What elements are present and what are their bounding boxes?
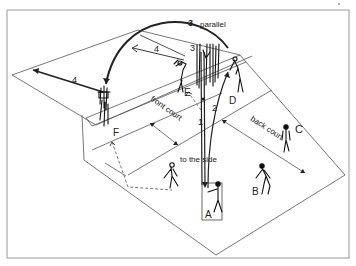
front-court-player-figure [164, 163, 178, 188]
player-D-label: D [229, 95, 236, 106]
player-C-label: C [295, 123, 303, 135]
pass-number-2: 2 [212, 103, 217, 113]
front-court-dimension: front court [149, 94, 184, 145]
volleyball-court-diagram: * front court back court [0, 0, 356, 266]
pass-number-4-left: 4 [72, 75, 77, 85]
pass-1-arrowhead [202, 182, 208, 188]
pass-number-3-arc: 3 [188, 18, 193, 28]
pass-number-4-top: 4 [154, 44, 159, 54]
pass-number-3-net: 3 [190, 43, 195, 53]
player-E-label: E [184, 87, 191, 98]
parallel-label: parallel [200, 20, 226, 29]
pass-4-left [33, 70, 103, 92]
player-A-label: A [205, 209, 212, 220]
to-the-side-label: to the side [180, 155, 217, 164]
player-D-figure [230, 57, 243, 92]
player-A-figure [208, 182, 222, 212]
net [86, 55, 246, 126]
back-court-label: back court [249, 114, 286, 142]
corner-mark: * [338, 2, 340, 8]
player-C-figure [282, 125, 290, 152]
pass-number-1: 1 [198, 117, 203, 127]
player-F-figure [98, 86, 110, 126]
player-B-label: B [252, 186, 259, 197]
pass-2 [208, 72, 228, 188]
front-court-label: front court [149, 94, 184, 122]
player-F-label: F [113, 127, 119, 138]
